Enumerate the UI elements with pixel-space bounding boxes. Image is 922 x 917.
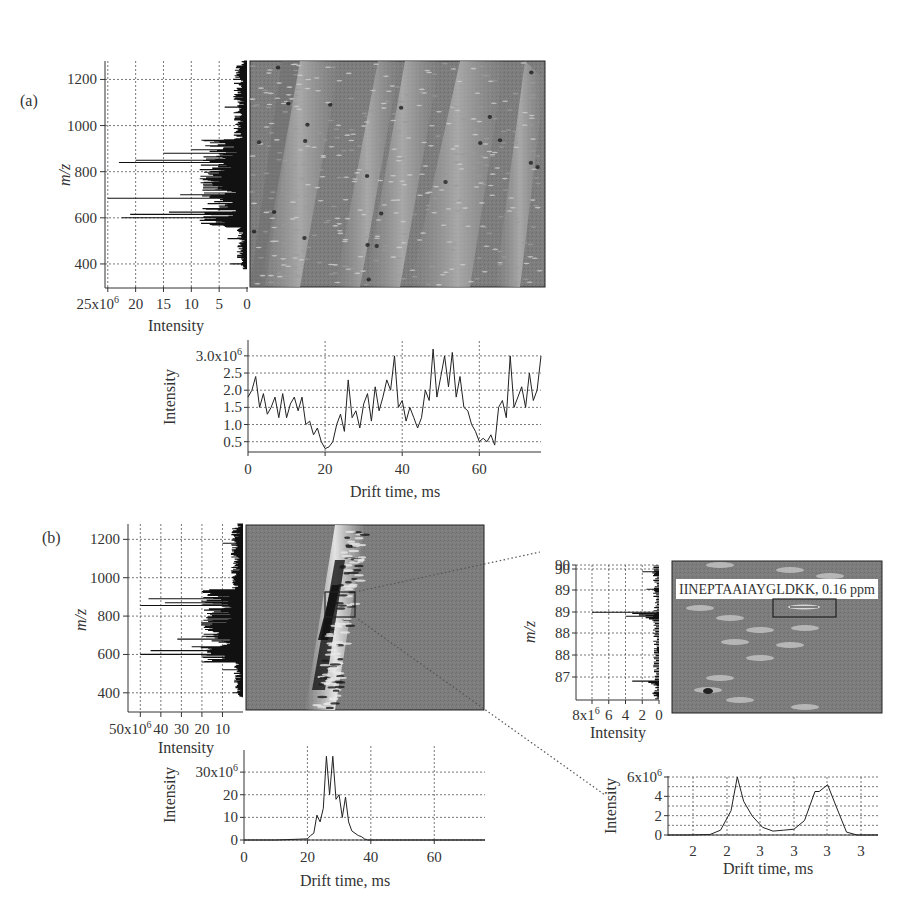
intensity-tick-label: 10 [223,809,238,825]
intensity-tick-label: 0 [655,707,663,723]
zoom-mz-axis-label: m/z [521,620,538,643]
panel-b-mz-spectrum: 40060080010001200 50x10640302010 m/z Int… [72,524,243,757]
panel-b-label: (b) [42,529,61,547]
drift-time-tick-label: 2 [689,843,697,859]
intensity-tick-label: 0 [243,296,251,312]
panel-a-intensity-axis-label: Intensity [148,317,204,335]
spectrum-peaks [140,524,243,697]
intensity-tick-label: 0 [231,832,239,848]
intensity-tick-label: 10 [215,721,230,737]
intensity-tick-label: 1.0 [223,417,242,433]
intensity-tick-label: 3.0x106 [196,346,242,364]
mz-tick-label: 1000 [90,570,120,586]
drift-time-tick-label: 40 [395,461,410,477]
intensity-tick-label: 20 [128,296,143,312]
drift-time-tick-label: 20 [300,849,315,865]
mz-tick-label: 88 [555,647,570,663]
intensity-tick-label: 2.5 [223,365,242,381]
drift-time-tick-label: 2 [723,843,731,859]
intensity-tick-label: 50x106 [109,719,152,737]
drift-time-tick-label: 20 [318,461,333,477]
drift-time-tick-label: 60 [427,849,442,865]
mz-tick-label: 89 [555,582,570,598]
intensity-tick-label: 6 [605,707,613,723]
intensity-tick-label: 2.0 [223,382,242,398]
intensity-tick-label: 20 [223,787,238,803]
figure-canvas: (a) 40060080010001200 25x10620151050 m/z… [0,0,922,917]
intensity-tick-label: 10 [184,296,199,312]
mz-tick-label: 600 [98,646,121,662]
intensity-tick-label: 25x106 [77,294,120,312]
panel-b-heatmap [246,525,484,710]
intensity-tick-label: 2 [639,707,647,723]
mz-tick-label: 88 [555,625,570,641]
mz-tick-label: 800 [75,164,98,180]
intensity-tick-label: 1.5 [223,399,242,415]
panel-a-mz-axis-label: m/z [56,163,73,186]
intensity-tick-label: 20 [194,721,209,737]
zoom-drift-intensity-label: Intensity [602,778,620,834]
panel-b-intensity-axis-label: Intensity [158,739,214,757]
drift-time-tick-label: 0 [244,461,252,477]
drift-trace [248,349,541,449]
drift-time-tick-label: 40 [363,849,378,865]
panel-a-mz-spectrum: 40060080010001200 25x10620151050 m/z Int… [56,61,251,335]
panel-a-heatmap [249,61,545,287]
intensity-tick-label: 4 [622,707,630,723]
intensity-tick-label: 0.5 [223,434,242,450]
drift-time-tick-label: 3 [790,843,798,859]
panel-a-label: (a) [20,92,38,110]
drift-time-tick-label: 3 [756,843,764,859]
intensity-tick-label: 8x16 [572,705,600,723]
peptide-annotation: IINEPTAAIAYGLDKK, 0.16 ppm [679,582,875,597]
mz-tick-label: 1200 [67,71,97,87]
intensity-tick-label: 6x106 [627,767,662,785]
drift-trace [244,756,485,840]
mz-tick-label: 400 [75,256,98,272]
drift-time-tick-label: 60 [472,461,487,477]
panel-a-drift-profile: 0.51.01.52.02.53.0x106 0204060 Intensity… [161,340,541,500]
intensity-tick-label: 30 [174,721,189,737]
mz-tick-label: 87 [555,669,571,685]
drift-time-tick-label: 0 [240,849,248,865]
intensity-tick-label: 0 [655,827,663,843]
mz-tick-label: 90 [555,557,570,573]
mz-tick-label: 600 [75,210,98,226]
panel-b-drift-time-label: Drift time, ms [300,872,390,889]
panel-b-mz-axis-label: m/z [72,608,89,631]
mz-tick-label: 1200 [90,531,120,547]
zoom-heatmap: IINEPTAAIAYGLDKK, 0.16 ppm [672,561,882,713]
zoom-drift-time-label: Drift time, ms [723,860,813,877]
zoom-intensity-axis-label: Intensity [590,724,646,742]
drift-time-tick-label: 3 [857,843,865,859]
mz-tick-label: 89 [555,604,570,620]
intensity-tick-label: 4 [655,788,663,804]
panel-a-drift-time-label: Drift time, ms [350,483,440,500]
panel-a-drift-intensity-label: Intensity [161,369,179,425]
zoom-mz-spectrum: 87888889899090 8x166420 m/z Intensity [521,557,663,742]
zoom-drift-profile: 0246x106 223333 Intensity Drift time, ms [602,767,878,877]
intensity-tick-label: 2 [655,808,663,824]
intensity-tick-label: 15 [156,296,171,312]
panel-b-drift-intensity-label: Intensity [161,767,179,823]
mz-tick-label: 1000 [67,118,97,134]
intensity-tick-label: 5 [215,296,223,312]
drift-time-tick-label: 3 [823,843,831,859]
mz-tick-label: 800 [98,608,121,624]
intensity-tick-label: 30x106 [196,762,239,780]
intensity-tick-label: 40 [153,721,168,737]
panel-b-drift-profile: 0102030x106 0204060 Intensity Drift time… [161,746,485,889]
mz-tick-label: 400 [98,685,121,701]
